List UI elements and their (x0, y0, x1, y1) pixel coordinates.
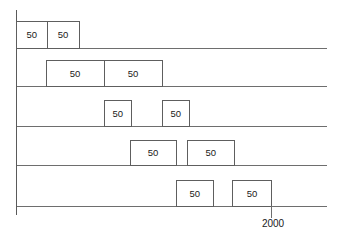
bar-value-label: 50 (128, 68, 139, 79)
bar-row-4: 50 50 (131, 141, 235, 166)
bar-value-label: 50 (26, 29, 37, 40)
bar-row-2: 50 50 (47, 61, 163, 87)
bar-value-label: 50 (70, 68, 81, 79)
x-axis-tick-label: 2000 (262, 218, 285, 229)
bar-value-label: 50 (58, 29, 69, 40)
bar-value-label: 50 (205, 147, 216, 158)
chart-container: 50 50 50 50 50 50 50 50 50 (0, 0, 339, 241)
bar-value-label: 50 (170, 108, 181, 119)
bar-value-label: 50 (189, 188, 200, 199)
bar-row-3: 50 50 (105, 101, 190, 127)
bar-value-label: 50 (112, 108, 123, 119)
bar-row-1: 50 50 (17, 22, 80, 49)
bar-row-5: 50 50 (177, 181, 272, 207)
gantt-style-bar-chart: 50 50 50 50 50 50 50 50 50 (0, 0, 339, 241)
bar-value-label: 50 (247, 188, 258, 199)
bar-value-label: 50 (148, 147, 159, 158)
